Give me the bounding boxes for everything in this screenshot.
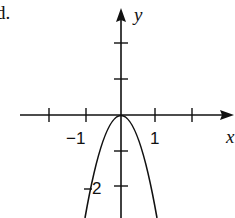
x-axis-arrow-icon <box>220 110 234 120</box>
y-axis-arrow-icon <box>116 8 126 22</box>
y-axis-label: y <box>134 5 142 24</box>
x-tick-label-1: 1 <box>150 130 159 147</box>
x-tick-label-neg1: −1 <box>66 130 85 147</box>
x-axis-label: x <box>226 127 234 146</box>
parabola-graph <box>0 0 235 218</box>
y-tick-label-neg2: 2 <box>92 180 101 197</box>
